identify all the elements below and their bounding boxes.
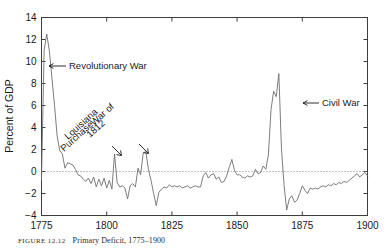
y-axis-label: Percent of GDP [3, 79, 15, 153]
y-tick-label-10: 10 [25, 56, 37, 67]
x-axis-tick-labels: 177518001825185018751900 [30, 220, 379, 231]
x-tick-label-1825: 1825 [161, 220, 184, 231]
figure-container: −4−202468101214 177518001825185018751900… [0, 0, 389, 250]
y-tick-label-14: 14 [25, 12, 37, 23]
x-tick-label-1850: 1850 [226, 220, 249, 231]
x-tick-label-1775: 1775 [30, 220, 53, 231]
y-tick-label-12: 12 [25, 34, 37, 45]
y-tick-label-0: 0 [31, 166, 37, 177]
figure-caption-title: Primary Deficit, 1775–1900 [73, 236, 166, 245]
x-tick-label-1800: 1800 [96, 220, 119, 231]
x-tick-label-1875: 1875 [291, 220, 314, 231]
civil-war-arrow [303, 101, 319, 106]
louisiana-purchase-arrow [112, 146, 122, 156]
primary-deficit-chart: −4−202468101214 177518001825185018751900… [0, 0, 389, 250]
annotation-revolutionary-war: Revolutionary War [49, 60, 147, 71]
revolutionary-war-label: Revolutionary War [69, 60, 147, 71]
y-tick-label-2: 2 [31, 144, 37, 155]
y-tick-label-6: 6 [31, 100, 37, 111]
annotation-civil-war: Civil War [303, 97, 360, 108]
revolutionary-war-arrow [49, 64, 66, 69]
figure-caption-number: FIGURE 12.12 [18, 237, 66, 245]
x-tick-label-1900: 1900 [356, 220, 379, 231]
figure-caption: FIGURE 12.12Primary Deficit, 1775–1900 [18, 236, 165, 245]
y-tick-label-4: 4 [31, 122, 37, 133]
war-of-1812-arrow [139, 144, 149, 154]
y-tick-label--2: −2 [25, 188, 37, 199]
y-tick-label-8: 8 [31, 78, 37, 89]
civil-war-label: Civil War [322, 97, 360, 108]
y-axis-tick-labels: −4−202468101214 [25, 12, 37, 221]
